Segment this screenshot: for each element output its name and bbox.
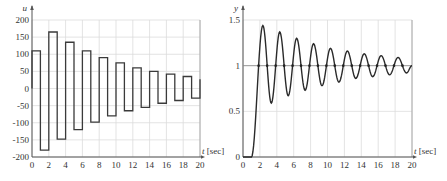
y-tick-label: 200: [16, 15, 30, 25]
y-axis-arrow-icon: [30, 5, 34, 10]
x-tick-label: 16: [162, 160, 172, 170]
x-tick-label: 6: [80, 160, 85, 170]
y-axis-label: y: [233, 3, 238, 13]
reference-crossing-marker: [283, 64, 286, 67]
figure: 02468101214161820200150100500-50-100-150…: [0, 0, 447, 181]
x-tick-label: 16: [374, 160, 384, 170]
reference-crossing-marker: [257, 64, 260, 67]
reference-crossing-marker: [350, 64, 353, 67]
x-tick-label: 12: [128, 160, 137, 170]
y-tick-label: 100: [16, 49, 30, 59]
x-tick-label: 18: [391, 160, 401, 170]
reference-crossing-marker: [308, 64, 311, 67]
output-response-plot: 0246810121416182000.511.5yt [sec]: [229, 3, 437, 170]
y-tick-label: 150: [16, 32, 30, 42]
x-tick-label: 6: [291, 160, 296, 170]
x-tick-label: 18: [179, 160, 189, 170]
y-tick-label: 1: [236, 61, 241, 71]
y-axis-arrow-icon: [241, 5, 245, 10]
x-tick-label: 10: [112, 160, 122, 170]
reference-crossing-marker: [266, 64, 269, 67]
y-tick-label: -150: [13, 135, 30, 145]
x-tick-label: 0: [241, 160, 246, 170]
x-tick-label: 2: [47, 160, 52, 170]
reference-crossing-marker: [376, 64, 379, 67]
x-tick-label: 14: [145, 160, 155, 170]
reference-crossing-marker: [342, 64, 345, 67]
reference-crossing-marker: [384, 64, 387, 67]
reference-crossing-marker: [325, 64, 328, 67]
reference-crossing-marker: [333, 64, 336, 67]
x-tick-label: 20: [196, 160, 206, 170]
reference-crossing-marker: [317, 64, 320, 67]
x-tick-label: 10: [323, 160, 333, 170]
y-tick-label: 0: [236, 152, 241, 162]
reference-crossing-marker: [291, 64, 294, 67]
y-tick-label: 1.5: [229, 15, 241, 25]
x-axis-label: t [sec]: [202, 146, 224, 156]
reference-crossing-marker: [393, 64, 396, 67]
y-tick-label: 0.5: [229, 106, 241, 116]
y-axis-label: u: [23, 3, 28, 13]
x-tick-label: 2: [258, 160, 263, 170]
y-tick-label: -200: [13, 152, 30, 162]
x-tick-label: 12: [340, 160, 349, 170]
reference-crossing-marker: [274, 64, 277, 67]
x-tick-label: 20: [408, 160, 418, 170]
y-tick-label: -100: [13, 118, 30, 128]
y-tick-label: 0: [25, 84, 30, 94]
x-tick-label: 4: [63, 160, 68, 170]
y-tick-label: -50: [17, 101, 29, 111]
reference-crossing-marker: [401, 64, 404, 67]
x-tick-label: 0: [30, 160, 35, 170]
x-tick-label: 4: [275, 160, 280, 170]
y-tick-label: 50: [20, 66, 30, 76]
x-tick-label: 14: [357, 160, 367, 170]
reference-crossing-marker: [367, 64, 370, 67]
x-tick-label: 8: [308, 160, 313, 170]
control-input-plot: 02468101214161820200150100500-50-100-150…: [13, 3, 225, 170]
reference-crossing-marker: [300, 64, 303, 67]
x-axis-label: t [sec]: [414, 146, 436, 156]
x-tick-label: 8: [97, 160, 102, 170]
reference-crossing-marker: [359, 64, 362, 67]
